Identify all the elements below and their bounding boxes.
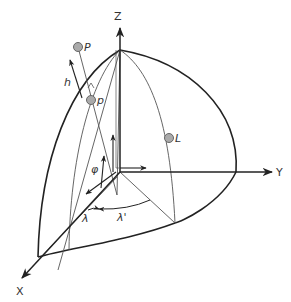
y-axis-label: Y xyxy=(275,166,283,179)
outer-meridian-yz xyxy=(120,50,236,172)
h-label: h xyxy=(64,76,71,89)
lambda-prime-arc xyxy=(99,200,150,209)
lambda-arc xyxy=(88,208,99,210)
L-label: L xyxy=(175,132,181,145)
z-axis-label: Z xyxy=(114,10,122,23)
angle-mark-at-p xyxy=(88,83,94,88)
x-axis xyxy=(22,172,120,278)
lambda-prime-label: λ' xyxy=(116,211,127,224)
lambda-label: λ xyxy=(81,212,89,225)
P-label: P xyxy=(84,41,91,54)
x-axis-label: X xyxy=(16,285,24,298)
point-L xyxy=(165,134,174,143)
p-label: p xyxy=(96,94,104,107)
axes xyxy=(22,28,272,278)
outer-meridian-xz xyxy=(38,50,120,257)
radial-to-equator-L xyxy=(120,172,175,223)
phi-arrow xyxy=(101,156,104,188)
labels: Z Y X P p L h φ λ λ' xyxy=(16,10,283,298)
point-P xyxy=(74,43,83,52)
equator-arc xyxy=(38,172,236,257)
points xyxy=(74,43,174,143)
h-direction-arrow xyxy=(70,60,82,98)
spherical-coordinates-diagram: Z Y X P p L h φ λ λ' xyxy=(0,0,291,302)
phi-label: φ xyxy=(91,163,99,176)
point-p xyxy=(87,96,96,105)
